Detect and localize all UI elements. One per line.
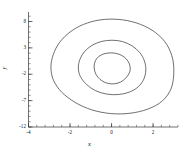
y-tick-label: 8 [23,19,26,24]
y-tick-label: 3 [23,45,26,50]
x-axis-ticks [29,123,179,127]
x-tick-label: -4 [26,130,30,135]
y-axis-ticks [29,16,33,127]
orbit-inner [94,53,130,84]
orbit-outer [51,19,174,114]
y-axis-label: y [0,67,7,70]
x-tick-label: 0 [110,130,113,135]
orbit-middle [78,40,146,94]
y-tick-label: -12 [19,124,26,129]
y-tick-label: -2 [22,72,26,77]
x-tick-label: 2 [152,130,155,135]
x-axis-label: x [88,140,91,147]
y-tick-label: -7 [22,98,26,103]
figure: -4-202 83-2-7-12 x y [0,0,179,155]
x-tick-label: -2 [68,130,72,135]
orbit-curves [51,19,174,114]
